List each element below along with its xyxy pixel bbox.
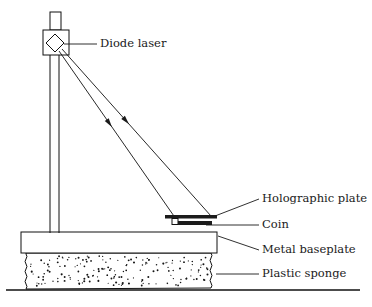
sponge-speck	[200, 275, 202, 277]
laser-mount-stem	[50, 12, 61, 30]
sponge-speck	[97, 276, 98, 277]
sponge-speck	[157, 269, 159, 271]
sponge-speck	[193, 279, 194, 280]
sponge-speck	[188, 260, 189, 261]
sponge-speck	[118, 276, 120, 278]
laser-beam-1	[59, 51, 176, 219]
sponge-speck	[115, 281, 117, 283]
sponge-speck	[83, 280, 85, 282]
sponge-speck	[117, 260, 118, 261]
sponge-speck	[121, 283, 123, 285]
sponge-speck	[74, 266, 75, 267]
sponge-speck	[49, 271, 51, 273]
sponge-speck	[133, 277, 134, 278]
sponge-speck	[179, 267, 181, 269]
sponge-speck	[102, 256, 103, 257]
sponge-speck	[75, 258, 76, 259]
sponge-speck	[69, 277, 70, 278]
sponge-speck	[68, 257, 69, 258]
sponge-speck	[68, 275, 69, 276]
sponge-speck	[200, 259, 202, 261]
sponge-speck	[145, 262, 147, 264]
laser-beam-group	[59, 49, 211, 219]
sponge-speck	[128, 259, 130, 261]
sponge-speck	[133, 261, 135, 263]
sponge-speck	[125, 269, 127, 271]
sponge-speck	[47, 264, 49, 266]
sponge-speck	[180, 282, 182, 284]
sponge-speck	[155, 283, 156, 284]
sponge-speck	[124, 256, 126, 258]
sponge-speck	[196, 278, 198, 280]
sponge-speck	[105, 261, 107, 263]
sponge-speck	[191, 269, 192, 270]
sponge-speck	[173, 278, 174, 279]
sponge-speck	[44, 263, 45, 264]
sponge-speck	[36, 282, 37, 283]
sponge-speck	[98, 270, 100, 272]
sponge-speck	[172, 270, 174, 272]
sponge-speck	[78, 257, 80, 259]
sponge-speck	[47, 270, 49, 272]
sponge-speck	[205, 257, 207, 259]
sponge-speck	[101, 268, 103, 270]
metal-baseplate-body	[21, 232, 217, 253]
sponge-speck	[145, 263, 146, 264]
sponge-speck	[36, 285, 38, 287]
sponge-speck	[115, 274, 116, 275]
sponge-speck	[104, 268, 105, 269]
sponge-speck	[82, 259, 84, 261]
sponge-speck	[114, 270, 115, 271]
sponge-speck	[80, 263, 81, 264]
diagram-canvas: Diode laser Holographic plate Coin Metal…	[0, 0, 372, 307]
sponge-speck	[61, 273, 63, 275]
sponge-speck	[141, 285, 143, 287]
sponge-speck	[110, 258, 112, 260]
sponge-speck	[114, 276, 116, 278]
sponge-speck	[206, 267, 208, 269]
sponge-speck	[113, 277, 115, 279]
sponge-speck	[49, 260, 50, 261]
sponge-speck	[93, 270, 94, 271]
sponge-speck	[127, 279, 129, 281]
plastic-sponge-block	[25, 253, 212, 289]
sponge-speck	[121, 276, 123, 278]
sponge-speck	[97, 280, 99, 282]
sponge-speck	[79, 284, 80, 285]
sponge-speck	[170, 275, 171, 276]
sponge-speck	[87, 276, 89, 278]
sponge-speck	[125, 265, 127, 267]
sponge-speck	[162, 263, 164, 265]
sponge-speck	[123, 271, 124, 272]
holography-setup-figure: Diode laser Holographic plate Coin Metal…	[0, 0, 372, 307]
sponge-speck	[118, 284, 119, 285]
sponge-speck	[180, 279, 181, 280]
sponge-speck	[44, 283, 45, 284]
plate-and-coin-assembly	[165, 215, 217, 225]
sponge-speck	[175, 284, 177, 286]
sponge-speck	[64, 276, 66, 278]
sponge-body	[25, 253, 212, 289]
sponge-speck	[192, 264, 193, 265]
sponge-speck	[177, 285, 179, 287]
vertical-post	[50, 55, 59, 233]
sponge-speck	[88, 256, 90, 258]
label-diode-laser: Diode laser	[100, 36, 167, 50]
plate-support-block	[172, 219, 178, 225]
sponge-speck	[84, 265, 86, 267]
sponge-speck	[33, 273, 34, 274]
sponge-speck	[90, 260, 92, 262]
sponge-speck	[70, 279, 71, 280]
sponge-speck	[147, 276, 149, 278]
sponge-speck	[201, 264, 202, 265]
holographic-plate-body	[165, 215, 217, 219]
sponge-speck	[38, 283, 40, 285]
sponge-speck	[172, 260, 173, 261]
sponge-speck	[141, 281, 142, 282]
sponge-speck	[43, 273, 45, 275]
sponge-speck	[185, 278, 187, 280]
sponge-speck	[111, 278, 113, 280]
sponge-speck	[62, 257, 63, 258]
leader-line-metal-baseplate	[218, 236, 259, 250]
sponge-speck	[190, 275, 191, 276]
